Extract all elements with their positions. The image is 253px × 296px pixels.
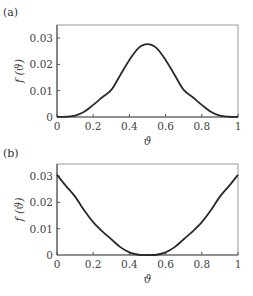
y-tick-label: 0.03 <box>30 170 53 182</box>
data-curve <box>57 44 238 117</box>
figure: (a)00.010.020.0300.20.40.60.81ϑf (ϑ)(b)0… <box>0 0 253 296</box>
y-axis-label: f (ϑ) <box>13 59 26 84</box>
plot-frame <box>57 25 238 117</box>
y-tick-label: 0 <box>46 111 53 123</box>
panel-label: (a) <box>3 6 18 19</box>
data-curve <box>57 175 238 255</box>
x-axis-label: ϑ <box>144 273 152 286</box>
panel-a: (a)00.010.020.0300.20.40.60.81ϑf (ϑ) <box>3 6 241 148</box>
x-tick-label: 1 <box>235 120 242 132</box>
x-tick-label: 0.6 <box>157 120 174 132</box>
panel-b: (b)00.010.020.0300.20.40.60.81ϑf (ϑ) <box>3 147 241 286</box>
y-tick-label: 0 <box>46 249 53 261</box>
x-tick-label: 0.6 <box>157 258 174 270</box>
panel-label: (b) <box>3 147 19 160</box>
y-tick-label: 0.03 <box>30 32 53 44</box>
x-tick-label: 0.2 <box>85 120 102 132</box>
x-tick-label: 1 <box>235 258 242 270</box>
x-tick-label: 0 <box>54 120 61 132</box>
y-tick-label: 0.02 <box>30 196 53 208</box>
y-axis-label: f (ϑ) <box>13 197 26 222</box>
y-tick-label: 0.01 <box>30 85 53 97</box>
y-tick-label: 0.02 <box>30 58 53 70</box>
x-tick-label: 0.8 <box>193 120 210 132</box>
x-tick-label: 0.4 <box>121 258 138 270</box>
y-tick-label: 0.01 <box>30 223 53 235</box>
x-tick-label: 0.2 <box>85 258 102 270</box>
x-tick-label: 0 <box>54 258 61 270</box>
x-tick-label: 0.8 <box>193 258 210 270</box>
x-tick-label: 0.4 <box>121 120 138 132</box>
x-axis-label: ϑ <box>144 135 152 148</box>
